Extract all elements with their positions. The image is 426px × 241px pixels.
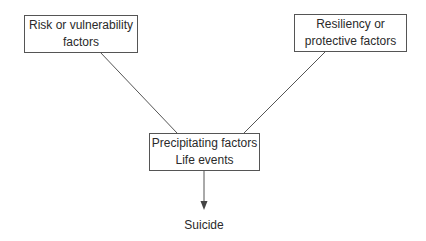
resiliency-factors-line-1: Resiliency or [316, 16, 385, 33]
resiliency-factors-box: Resiliency or protective factors [294, 14, 407, 52]
precipitating-factors-line-1: Precipitating factors [152, 135, 257, 152]
risk-factors-line-2: factors [63, 34, 99, 51]
outcome-label: Suicide [174, 218, 234, 232]
risk-factors-line-1: Risk or vulnerability [29, 17, 133, 34]
precipitating-factors-line-2: Life events [175, 152, 233, 169]
resiliency-factors-line-2: protective factors [305, 33, 396, 50]
arrowhead-icon [201, 201, 208, 210]
risk-factors-box: Risk or vulnerability factors [24, 15, 138, 53]
resiliency-to-precipitating-line [244, 51, 326, 133]
risk-to-precipitating-line [100, 52, 177, 133]
precipitating-factors-box: Precipitating factors Life events [149, 133, 260, 171]
